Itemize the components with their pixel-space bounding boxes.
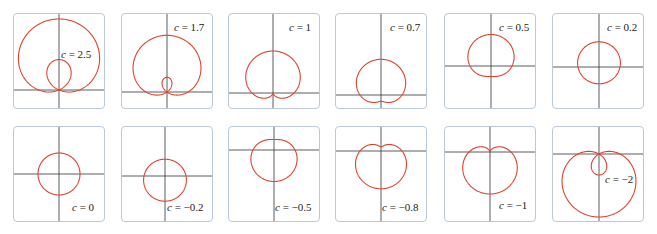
plot-area xyxy=(14,14,105,109)
c-value-label: c = 1 xyxy=(289,21,311,33)
polar-plot-panel: c = 0.2 xyxy=(552,13,644,109)
polar-plot-panel: c = 0.7 xyxy=(335,13,427,109)
c-value-label: c = −0.2 xyxy=(167,201,204,213)
c-value-label: c = 0 xyxy=(72,201,94,213)
c-value-label: c = −2 xyxy=(605,173,633,185)
polar-plot-panel: c = 2.5 xyxy=(13,13,105,109)
c-value-label: c = 0.5 xyxy=(499,21,529,33)
c-value-label: c = −0.8 xyxy=(382,201,419,213)
polar-plot-panel: c = 1 xyxy=(228,13,320,109)
polar-plot-panel: c = 0.5 xyxy=(444,13,536,109)
c-value-label: c = 0.7 xyxy=(390,21,420,33)
polar-plot-panel: c = 1.7 xyxy=(121,13,213,109)
c-value-label: c = −1 xyxy=(499,199,527,211)
c-value-label: c = 2.5 xyxy=(61,48,91,60)
polar-plot-panel: c = −1 xyxy=(444,126,536,222)
c-value-label: c = −0.5 xyxy=(275,201,312,213)
polar-plot-panel: c = −0.5 xyxy=(228,126,320,222)
c-value-label: c = 1.7 xyxy=(174,21,204,33)
polar-plot-panel: c = −2 xyxy=(552,126,644,222)
polar-plot-panel: c = −0.2 xyxy=(121,126,213,222)
polar-plot-panel: c = 0 xyxy=(13,126,105,222)
polar-plot-panel: c = −0.8 xyxy=(335,126,427,222)
c-value-label: c = 0.2 xyxy=(607,21,637,33)
